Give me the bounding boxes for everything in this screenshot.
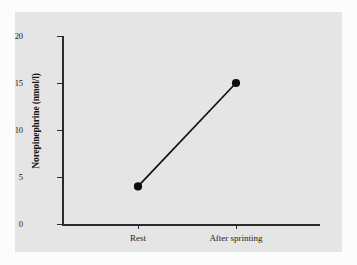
data-point-rest bbox=[134, 182, 142, 190]
chart-screenshot: 20 15 10 5 0 Rest After sprinting Norepi… bbox=[0, 0, 357, 265]
data-line-norepinephrine bbox=[138, 83, 236, 186]
chart-panel: 20 15 10 5 0 Rest After sprinting Norepi… bbox=[15, 12, 342, 252]
data-point-after-sprinting bbox=[232, 79, 240, 87]
plot-area bbox=[15, 12, 342, 252]
